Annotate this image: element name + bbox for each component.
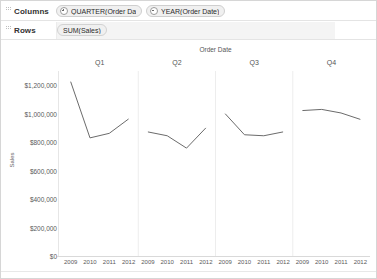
columns-shelf-label: Columns xyxy=(14,7,56,16)
chart-area: Order Date Q1 Q2 Q3 Q4 Sales $1,200,000$… xyxy=(1,41,376,278)
x-tick-group-q3: 2009201020112012 xyxy=(216,259,293,271)
rows-shelf-label: Rows xyxy=(14,26,56,35)
line-series-q1[interactable] xyxy=(71,82,129,138)
pill-sum-sales[interactable]: SUM(Sales) xyxy=(57,24,107,36)
x-axis-line xyxy=(57,256,370,257)
y-tick-label: $400,000 xyxy=(30,196,57,203)
x-tick-group-q1: 2009201020112012 xyxy=(61,259,138,271)
x-tick-label: 2011 xyxy=(100,259,119,271)
x-tick-label: 2012 xyxy=(119,259,138,271)
rows-shelf[interactable]: Rows SUM(Sales) xyxy=(1,21,376,40)
x-tick-label: 2012 xyxy=(273,259,292,271)
column-axis-title: Order Date xyxy=(61,46,370,53)
y-tick-label: $1,000,000 xyxy=(24,110,57,117)
pill-label: QUARTER(Order Dat.. xyxy=(71,8,136,15)
pill-label: YEAR(Order Date) xyxy=(161,8,219,15)
y-tick-label: $800,000 xyxy=(30,139,57,146)
x-tick-label: 2011 xyxy=(331,259,350,271)
rows-drop-zone[interactable]: SUM(Sales) xyxy=(56,22,335,39)
drag-handle-icon[interactable] xyxy=(5,25,11,36)
plot-area xyxy=(61,71,370,256)
y-tick-label: $200,000 xyxy=(30,224,57,231)
x-tick-label: 2009 xyxy=(216,259,235,271)
y-axis-line xyxy=(58,71,59,256)
pill-label: SUM(Sales) xyxy=(63,27,101,34)
panel-header-q4: Q4 xyxy=(293,59,370,69)
y-tick-label: $600,000 xyxy=(30,167,57,174)
x-tick-label: 2010 xyxy=(235,259,254,271)
line-chart-svg xyxy=(61,71,370,256)
line-series-q2[interactable] xyxy=(148,128,206,148)
panel-header-q2: Q2 xyxy=(138,59,215,69)
line-series-q4[interactable] xyxy=(302,109,360,119)
panel-header-q3: Q3 xyxy=(216,59,293,69)
expand-plus-icon[interactable] xyxy=(60,7,68,15)
tableau-worksheet: Columns QUARTER(Order Dat.. YEAR(Order D… xyxy=(0,0,377,279)
columns-shelf[interactable]: Columns QUARTER(Order Dat.. YEAR(Order D… xyxy=(1,2,376,21)
panel-header-q1: Q1 xyxy=(61,59,138,69)
drag-handle-icon[interactable] xyxy=(5,6,11,17)
collapse-minus-icon[interactable] xyxy=(150,7,158,15)
x-tick-label: 2011 xyxy=(177,259,196,271)
quarter-panel-headers: Q1 Q2 Q3 Q4 xyxy=(61,59,370,69)
x-tick-label: 2009 xyxy=(61,259,80,271)
columns-drop-zone[interactable]: QUARTER(Order Dat.. YEAR(Order Date) xyxy=(56,3,376,20)
x-tick-label: 2011 xyxy=(254,259,273,271)
x-tick-label: 2009 xyxy=(293,259,312,271)
x-axis-tick-labels: 2009201020112012200920102011201220092010… xyxy=(61,259,370,271)
y-axis-tick-labels: $1,200,000$1,000,000$800,000$600,000$400… xyxy=(13,71,57,256)
pill-quarter-order-date[interactable]: QUARTER(Order Dat.. xyxy=(56,5,142,17)
pill-year-order-date[interactable]: YEAR(Order Date) xyxy=(146,5,225,17)
y-tick-label: $0 xyxy=(50,253,57,260)
x-tick-label: 2010 xyxy=(80,259,99,271)
shelf-area: Columns QUARTER(Order Dat.. YEAR(Order D… xyxy=(1,1,376,41)
x-tick-group-q2: 2009201020112012 xyxy=(138,259,215,271)
line-series-q3[interactable] xyxy=(225,114,283,136)
x-tick-label: 2012 xyxy=(351,259,370,271)
x-tick-label: 2009 xyxy=(138,259,157,271)
x-tick-label: 2010 xyxy=(158,259,177,271)
bottom-divider xyxy=(1,271,376,272)
y-tick-label: $1,200,000 xyxy=(24,82,57,89)
x-tick-label: 2010 xyxy=(312,259,331,271)
x-tick-label: 2012 xyxy=(196,259,215,271)
x-tick-group-q4: 2009201020112012 xyxy=(293,259,370,271)
